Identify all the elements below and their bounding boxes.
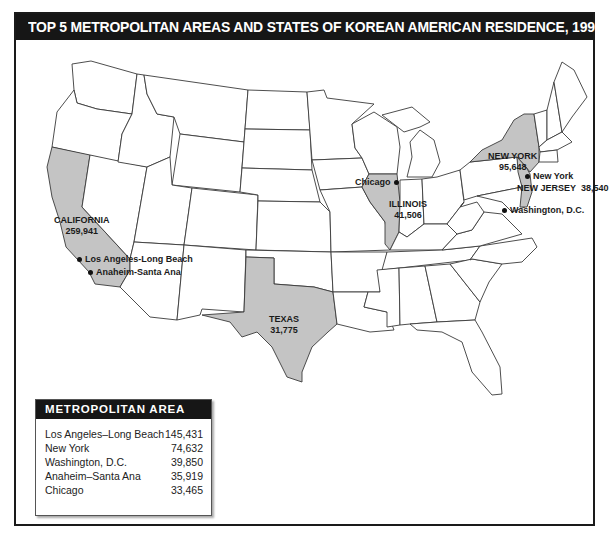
city-name: Chicago	[355, 177, 391, 187]
state-name: CALIFORNIA	[54, 215, 110, 225]
city-washington-dc: Washington, D.C.	[502, 205, 584, 215]
state-value: 38,540	[581, 183, 609, 193]
legend-value: 35,919	[171, 469, 203, 483]
state-name: NEW JERSEY	[517, 183, 576, 193]
state-value: 31,775	[269, 325, 299, 336]
legend-area: New York	[45, 441, 89, 455]
state-connecticut	[539, 150, 558, 162]
label-california: CALIFORNIA 259,941	[54, 215, 110, 237]
state-name: TEXAS	[269, 314, 299, 324]
state-north-dakota	[245, 90, 310, 130]
legend-area: Washington, D.C.	[45, 455, 127, 469]
state-south-dakota	[242, 129, 312, 170]
city-name: New York	[533, 171, 573, 181]
city-dot-icon	[502, 208, 507, 213]
city-chicago: Chicago	[355, 177, 399, 187]
state-name: NEW YORK	[488, 151, 537, 161]
state-value: 41,506	[389, 210, 427, 221]
state-value: 259,941	[54, 226, 110, 237]
state-name: ILLINOIS	[389, 199, 427, 209]
legend-area: Los Angeles–Long Beach	[45, 427, 164, 441]
city-dot-icon	[394, 180, 399, 185]
legend-row: Washington, D.C. 39,850	[45, 455, 203, 469]
metro-area-legend: METROPOLITAN AREA Los Angeles–Long Beach…	[35, 399, 212, 516]
legend-header: METROPOLITAN AREA	[36, 400, 211, 419]
legend-row: Anaheim–Santa Ana 35,919	[45, 469, 203, 483]
state-colorado	[184, 188, 258, 250]
state-kansas	[256, 201, 331, 252]
city-name: Los Angeles-Long Beach	[85, 254, 193, 264]
legend-area: Anaheim–Santa Ana	[45, 469, 141, 483]
label-new-jersey: NEW JERSEY 38,540	[517, 183, 609, 194]
city-new-york: New York	[525, 171, 573, 181]
city-dot-icon	[525, 174, 530, 179]
label-illinois: ILLINOIS 41,506	[389, 199, 427, 221]
map-frame: TOP 5 METROPOLITAN AREAS AND STATES OF K…	[14, 12, 595, 526]
legend-value: 39,850	[171, 455, 203, 469]
city-anaheim-santa-ana: Anaheim-Santa Ana	[88, 267, 181, 277]
legend-row: Chicago 33,465	[45, 483, 203, 497]
label-new-york: NEW YORK 95,648	[488, 151, 537, 173]
legend-row: New York 74,632	[45, 441, 203, 455]
label-texas: TEXAS 31,775	[269, 314, 299, 336]
city-name: Anaheim-Santa Ana	[96, 267, 181, 277]
legend-area: Chicago	[45, 483, 84, 497]
city-dot-icon	[77, 257, 82, 262]
legend-value: 145,431	[165, 427, 203, 441]
city-dot-icon	[88, 270, 93, 275]
city-name: Washington, D.C.	[510, 205, 584, 215]
legend-value: 33,465	[171, 483, 203, 497]
state-florida	[410, 320, 502, 395]
legend-rows: Los Angeles–Long Beach 145,431 New York …	[36, 419, 211, 497]
state-wyoming	[172, 134, 244, 192]
legend-row: Los Angeles–Long Beach 145,431	[45, 427, 203, 441]
city-los-angeles-long-beach: Los Angeles-Long Beach	[77, 254, 193, 264]
legend-value: 74,632	[171, 441, 203, 455]
